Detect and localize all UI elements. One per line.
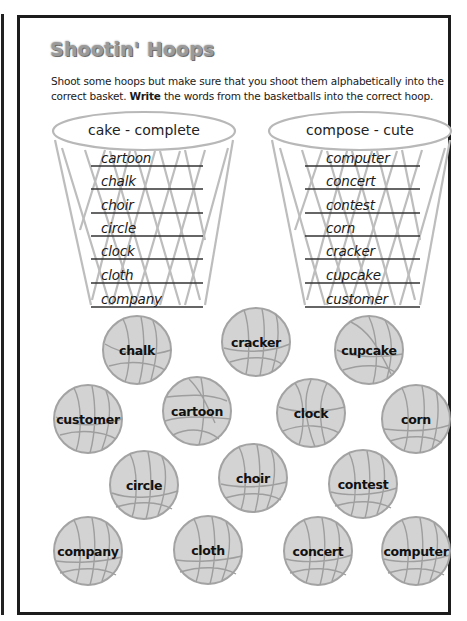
answer-field[interactable]: cartoon	[101, 150, 151, 166]
instructions-line-2: correct basket. Write the words from the…	[51, 89, 467, 104]
basketball[interactable]: contest	[327, 448, 399, 520]
answer-field[interactable]: cupcake	[326, 267, 381, 283]
basketball-word: clock	[265, 377, 357, 449]
answer-field[interactable]: chalk	[101, 173, 136, 189]
basketball-word: cloth	[162, 514, 254, 586]
basketball-word: choir	[207, 442, 299, 514]
basketball[interactable]: choir	[217, 442, 289, 514]
answer-field[interactable]: contest	[326, 197, 375, 213]
hoop-right-range-label: compose - cute	[296, 122, 424, 138]
basketball-word: company	[42, 515, 134, 587]
hoop-left-range-label: cake - complete	[80, 122, 208, 138]
instructions: Shoot some hoops but make sure that you …	[51, 74, 467, 104]
basketball[interactable]: clock	[275, 377, 347, 449]
answer-field[interactable]: cracker	[326, 243, 375, 259]
basketball-word: cupcake	[323, 314, 415, 386]
basketball-word: cartoon	[151, 375, 243, 447]
basketball-word: contest	[317, 448, 409, 520]
answer-field[interactable]: circle	[101, 220, 136, 236]
basketball[interactable]: cracker	[220, 306, 292, 378]
basketball[interactable]: computer	[380, 515, 452, 587]
basketball[interactable]: corn	[380, 383, 452, 455]
basketball[interactable]: company	[52, 515, 124, 587]
basketball-word: circle	[98, 449, 190, 521]
answer-field[interactable]: company	[101, 291, 162, 307]
basketball[interactable]: circle	[108, 449, 180, 521]
worksheet-title: Shootin' Hoops	[50, 38, 215, 60]
answer-field[interactable]: corn	[326, 220, 355, 236]
instructions-line-1: Shoot some hoops but make sure that you …	[51, 74, 467, 89]
basketball-word: concert	[272, 515, 364, 587]
answer-field[interactable]: choir	[101, 197, 134, 213]
instructions-text: the words from the basketballs into the …	[161, 90, 433, 102]
basketball-word: customer	[42, 383, 134, 455]
answer-field[interactable]: customer	[326, 291, 388, 307]
basketball[interactable]: cupcake	[333, 314, 405, 386]
basketball[interactable]: cloth	[172, 514, 244, 586]
basketball[interactable]: concert	[282, 515, 354, 587]
instructions-emphasis: Write	[129, 90, 160, 102]
answer-field[interactable]: computer	[326, 150, 390, 166]
basketball[interactable]: customer	[52, 383, 124, 455]
answer-field[interactable]: concert	[326, 173, 375, 189]
basketball-word: corn	[370, 383, 462, 455]
answer-field[interactable]: cloth	[101, 267, 133, 283]
instructions-text: correct basket.	[51, 90, 129, 102]
basketball-word: computer	[370, 515, 462, 587]
basketball-word: cracker	[210, 306, 302, 378]
answer-field[interactable]: clock	[101, 243, 135, 259]
basketball[interactable]: cartoon	[161, 375, 233, 447]
previous-page-edge	[1, 14, 4, 615]
